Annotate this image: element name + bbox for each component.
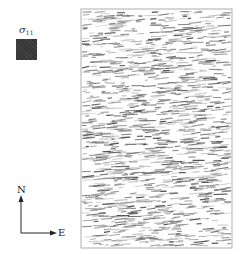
stress-orientation-field <box>0 0 240 254</box>
